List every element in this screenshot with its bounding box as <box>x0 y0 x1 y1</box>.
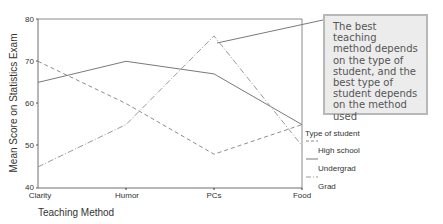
annotation-line: student depends <box>333 88 422 99</box>
legend-item-undergrad: Undergrad <box>318 164 356 173</box>
y-axis-title: Mean Score on Statistics Exam <box>8 34 19 173</box>
legend-title: Type of student <box>305 129 360 138</box>
annotation-text: The best teaching method depends on the … <box>333 21 422 122</box>
annotation-callout-box: The best teaching method depends on the … <box>323 14 428 115</box>
y-tick-label: 60 <box>25 99 34 108</box>
series-line-high-school <box>38 61 302 154</box>
y-tick-label: 70 <box>25 57 34 66</box>
annotation-line: The best teaching <box>333 21 422 43</box>
legend: Type of student High school Undergrad Gr… <box>305 129 360 191</box>
legend-item-high-school: High school <box>318 146 360 155</box>
x-axis-title: Teaching Method <box>38 207 114 218</box>
y-tick-label: 80 <box>25 15 34 24</box>
annotation-line: best type of <box>333 77 422 88</box>
annotation-line: method depends <box>333 43 422 54</box>
series-line-undergrad <box>38 61 302 124</box>
annotation-line: on the method <box>333 99 422 110</box>
annotation-pointer-line <box>217 20 323 43</box>
annotation-line: student, and the <box>333 66 422 77</box>
annotation-line: on the type of <box>333 55 422 66</box>
x-tick-label: PCs <box>206 191 221 200</box>
x-tick-label: Humor <box>115 191 139 200</box>
x-tick-label: Clarity <box>29 191 52 200</box>
x-tick-label: Food <box>293 191 311 200</box>
y-ticks: 80 70 60 50 40 <box>25 15 38 192</box>
legend-item-grad: Grad <box>318 182 336 191</box>
annotation-line: used <box>333 111 422 122</box>
y-tick-label: 50 <box>25 141 34 150</box>
x-ticks: Clarity Humor PCs Food <box>29 188 311 200</box>
plot-frame <box>38 19 302 188</box>
